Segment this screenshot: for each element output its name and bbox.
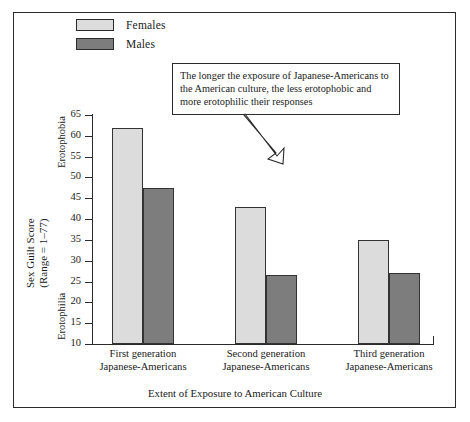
x-category-line: Japanese-Americans — [329, 361, 449, 374]
legend-swatch-males — [76, 38, 114, 50]
bar-females-group-1 — [112, 128, 143, 345]
annotation-line-1: The longer the exposure of Japanese-Amer… — [180, 69, 392, 82]
y-tick-label: 35 — [56, 234, 81, 244]
legend-item-males: Males — [76, 36, 166, 52]
legend-swatch-females — [76, 19, 114, 31]
bar-males-group-1 — [143, 188, 174, 344]
annotation-line-3: more erotophilic their responses — [180, 95, 392, 108]
x-category-label-2: Second generationJapanese-Americans — [206, 348, 326, 373]
y-axis-low-label: Erotophilia — [56, 293, 67, 340]
x-category-line: Japanese-Americans — [83, 361, 203, 374]
x-axis-line — [92, 344, 434, 345]
bar-males-group-3 — [389, 273, 420, 344]
legend-label-males: Males — [126, 38, 155, 50]
y-tick: 35 — [56, 240, 93, 241]
annotation-line-2: the American culture, the less erotophob… — [180, 82, 392, 95]
y-axis-title: Sex Guilt Score (Range = 1–77) — [24, 218, 49, 288]
bar-females-group-2 — [235, 207, 266, 344]
y-tick-label: 50 — [56, 171, 81, 181]
y-tick: 50 — [56, 177, 93, 178]
y-axis-title-line-2: (Range = 1–77) — [37, 218, 50, 288]
y-tick: 45 — [56, 198, 93, 199]
legend-item-females: Females — [76, 17, 166, 33]
y-axis-title-line-1: Sex Guilt Score — [24, 218, 37, 288]
annotation-callout: The longer the exposure of Japanese-Amer… — [172, 63, 400, 115]
legend-label-females: Females — [126, 19, 166, 31]
x-category-line: First generation — [83, 348, 203, 361]
y-axis-high-label: Erotophobia — [56, 116, 67, 168]
y-tick-mark — [85, 344, 93, 345]
bar-females-group-3 — [358, 240, 389, 344]
y-tick: 10 — [56, 344, 93, 345]
x-category-label-1: First generationJapanese-Americans — [83, 348, 203, 373]
x-axis-title: Extent of Exposure to American Culture — [0, 387, 470, 399]
y-tick: 25 — [56, 282, 93, 283]
x-category-label-3: Third generationJapanese-Americans — [329, 348, 449, 373]
y-tick-label: 25 — [56, 276, 81, 286]
plot-area — [92, 115, 434, 344]
bar-males-group-2 — [266, 275, 297, 344]
y-tick-label: 45 — [56, 192, 81, 202]
y-tick: 40 — [56, 219, 93, 220]
x-category-line: Japanese-Americans — [206, 361, 326, 374]
figure-bar-chart: Females Males The longer the exposure of… — [0, 0, 470, 422]
y-tick-label: 40 — [56, 213, 81, 223]
y-tick-label: 30 — [56, 255, 81, 265]
chart-legend: Females Males — [76, 17, 166, 55]
y-tick: 30 — [56, 261, 93, 262]
x-category-line: Second generation — [206, 348, 326, 361]
x-category-line: Third generation — [329, 348, 449, 361]
